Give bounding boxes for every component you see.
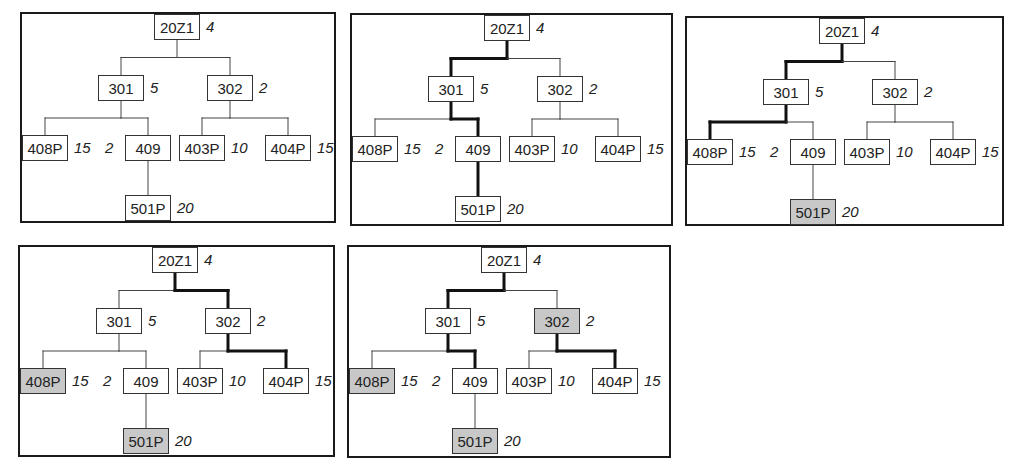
node-weight-501p: 20 — [842, 199, 859, 225]
node-weight-409: 2 — [105, 135, 113, 161]
tree-panel-3: 20Z1430153022408P154092403P10404P15501P2… — [685, 16, 1004, 226]
node-404p: 404P — [263, 368, 309, 394]
node-302: 302 — [207, 75, 253, 101]
node-408p: 408P — [20, 368, 66, 394]
node-501p: 501P — [790, 199, 836, 225]
node-weight-20z1: 4 — [206, 14, 214, 40]
node-403p: 403P — [179, 135, 225, 161]
node-weight-408p: 15 — [401, 368, 418, 394]
node-weight-409: 2 — [435, 136, 443, 162]
node-302: 302 — [872, 79, 918, 105]
node-408p: 408P — [352, 136, 398, 162]
node-weight-302: 2 — [586, 308, 594, 334]
node-408p: 408P — [687, 139, 733, 165]
node-403p: 403P — [509, 136, 555, 162]
node-weight-403p: 10 — [896, 139, 913, 165]
node-403p: 403P — [506, 368, 552, 394]
node-409: 409 — [452, 368, 498, 394]
node-weight-301: 5 — [148, 308, 156, 334]
node-weight-403p: 10 — [558, 368, 575, 394]
node-501p: 501P — [455, 196, 501, 222]
node-404p: 404P — [930, 139, 976, 165]
node-404p: 404P — [592, 368, 638, 394]
connector-lines — [687, 18, 1006, 228]
node-weight-408p: 15 — [404, 136, 421, 162]
node-weight-20z1: 4 — [204, 247, 212, 273]
node-403p: 403P — [177, 368, 223, 394]
node-409: 409 — [790, 139, 836, 165]
node-20z1: 20Z1 — [154, 14, 200, 40]
tree-panel-5: 20Z1430153022408P154092403P10404P15501P2… — [347, 245, 671, 458]
node-weight-302: 2 — [257, 308, 265, 334]
node-weight-501p: 20 — [177, 195, 194, 221]
node-403p: 403P — [844, 139, 890, 165]
node-302: 302 — [537, 76, 583, 102]
node-weight-501p: 20 — [504, 428, 521, 454]
node-weight-501p: 20 — [175, 428, 192, 454]
node-weight-301: 5 — [477, 308, 485, 334]
node-weight-302: 2 — [259, 75, 267, 101]
node-weight-302: 2 — [924, 79, 932, 105]
node-409: 409 — [123, 368, 169, 394]
node-weight-409: 2 — [770, 139, 778, 165]
node-20z1: 20Z1 — [152, 247, 198, 273]
node-408p: 408P — [22, 135, 68, 161]
node-weight-403p: 10 — [229, 368, 246, 394]
node-301: 301 — [763, 79, 809, 105]
node-weight-301: 5 — [480, 76, 488, 102]
node-weight-20z1: 4 — [536, 15, 544, 41]
node-weight-408p: 15 — [72, 368, 89, 394]
node-301: 301 — [98, 75, 144, 101]
node-weight-403p: 10 — [231, 135, 248, 161]
node-409: 409 — [455, 136, 501, 162]
node-weight-408p: 15 — [74, 135, 91, 161]
node-weight-409: 2 — [432, 368, 440, 394]
node-weight-501p: 20 — [507, 196, 524, 222]
node-weight-408p: 15 — [739, 139, 756, 165]
node-20z1: 20Z1 — [481, 247, 527, 273]
tree-panel-2: 20Z1430153022408P154092403P10404P15501P2… — [350, 13, 673, 226]
node-weight-20z1: 4 — [533, 247, 541, 273]
node-20z1: 20Z1 — [484, 15, 530, 41]
node-20z1: 20Z1 — [819, 18, 865, 44]
node-404p: 404P — [265, 135, 311, 161]
tree-panel-4: 20Z1430153022408P154092403P10404P15501P2… — [18, 245, 335, 457]
tree-panel-1: 20Z1430153022408P154092403P10404P15501P2… — [20, 12, 336, 223]
node-weight-409: 2 — [103, 368, 111, 394]
node-weight-20z1: 4 — [871, 18, 879, 44]
node-weight-404p: 15 — [315, 368, 332, 394]
node-weight-404p: 15 — [644, 368, 661, 394]
node-weight-403p: 10 — [561, 136, 578, 162]
node-501p: 501P — [123, 428, 169, 454]
connector-lines — [22, 14, 338, 225]
node-weight-301: 5 — [815, 79, 823, 105]
node-301: 301 — [428, 76, 474, 102]
node-501p: 501P — [452, 428, 498, 454]
node-weight-404p: 15 — [982, 139, 999, 165]
node-404p: 404P — [595, 136, 641, 162]
node-301: 301 — [425, 308, 471, 334]
node-501p: 501P — [125, 195, 171, 221]
node-weight-404p: 15 — [317, 135, 334, 161]
node-weight-302: 2 — [589, 76, 597, 102]
node-302: 302 — [205, 308, 251, 334]
node-302: 302 — [534, 308, 580, 334]
node-408p: 408P — [349, 368, 395, 394]
node-409: 409 — [125, 135, 171, 161]
node-weight-301: 5 — [150, 75, 158, 101]
node-weight-404p: 15 — [647, 136, 664, 162]
node-301: 301 — [96, 308, 142, 334]
